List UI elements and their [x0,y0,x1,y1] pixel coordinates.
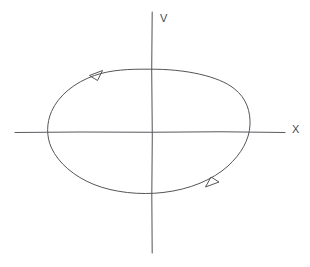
direction-arrow-lower-right-icon [206,177,220,187]
v-axis-label: V [160,12,168,24]
v-axis-line [152,12,153,253]
phase-portrait-figure: V X [0,0,310,267]
x-axis-label: X [292,123,300,135]
phase-portrait-canvas: V X [0,0,310,267]
x-axis-line [15,132,285,133]
